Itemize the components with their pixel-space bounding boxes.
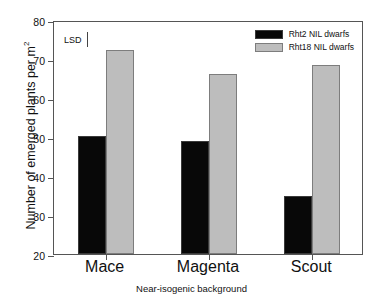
bar-magenta-rht2: [181, 141, 209, 254]
y-axis-title-superscript: 2: [22, 42, 31, 46]
x-group-label-mace: Mace: [85, 258, 124, 276]
y-tick-label: 80: [33, 16, 45, 28]
x-group-label-scout: Scout: [291, 258, 332, 276]
y-tick-label: 30: [33, 211, 45, 223]
y-tick-label: 60: [33, 94, 45, 106]
y-tick-label: 20: [33, 250, 45, 262]
bar-scout-rht2: [284, 196, 312, 255]
y-tick-label: 70: [33, 55, 45, 67]
bar-scout-rht18: [312, 65, 340, 254]
y-tick-mark: [48, 256, 54, 257]
x-axis-title: Near-isogenic background: [0, 283, 383, 294]
bar-chart-figure: Number of emerged plants per m2 LSD Rht2…: [0, 0, 383, 303]
bar-mace-rht2: [78, 136, 106, 254]
y-tick-label: 50: [33, 133, 45, 145]
x-group-label-magenta: Magenta: [177, 258, 239, 276]
bar-series-container: [54, 22, 362, 254]
bar-magenta-rht18: [209, 74, 237, 254]
plot-area: LSD Rht2 NIL dwarfs Rht18 NIL dwarfs 203…: [53, 21, 363, 255]
bar-mace-rht18: [106, 50, 134, 254]
y-tick-label: 40: [33, 172, 45, 184]
